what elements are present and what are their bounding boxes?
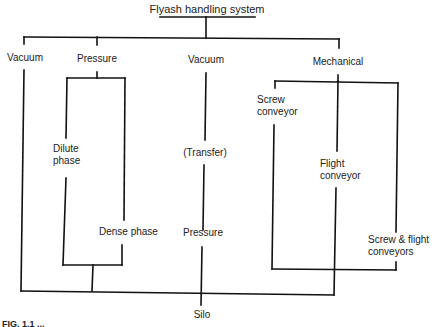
figure-caption: FIG. 1.1 ... xyxy=(2,318,45,327)
node-pressure: Pressure xyxy=(77,53,117,65)
node-transfer-pressure: Pressure xyxy=(183,227,223,239)
node-flight-conveyor-line1: Flight xyxy=(320,158,344,170)
node-vacuum-center: Vacuum xyxy=(188,54,224,66)
diagram-title: Flyash handling system xyxy=(150,3,265,15)
node-screw-conveyor-line2: conveyor xyxy=(257,106,298,118)
node-transfer: (Transfer) xyxy=(183,147,227,159)
node-screw-flight-conveyors-line2: conveyors xyxy=(368,246,414,258)
node-screw-conveyor-line1: Screw xyxy=(257,94,285,106)
node-mechanical: Mechanical xyxy=(313,56,364,68)
node-flight-conveyor-line2: conveyor xyxy=(320,170,361,182)
node-screw-flight-conveyors-line1: Screw & flight xyxy=(368,234,429,246)
node-silo: Silo xyxy=(194,309,211,321)
flyash-handling-diagram: Flyash handling system Vacuum Pressure V… xyxy=(0,0,435,327)
node-dilute-phase-line2: phase xyxy=(53,155,80,167)
node-dilute-phase-line1: Dilute xyxy=(53,143,79,155)
node-dense-phase: Dense phase xyxy=(99,226,158,238)
node-vacuum-left: Vacuum xyxy=(7,52,43,64)
